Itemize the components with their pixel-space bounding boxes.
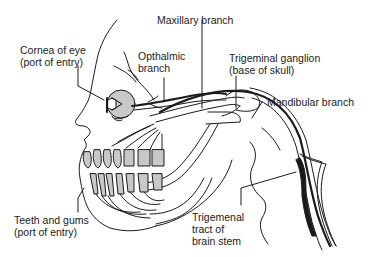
- label-cornea-line2: (port of entry): [20, 56, 86, 68]
- label-cornea-line1: Cornea of eye: [20, 44, 86, 56]
- upper-teeth-nerves: [112, 124, 162, 150]
- label-mandibular-text: Mandibular branch: [267, 96, 354, 108]
- trigeminal-diagram: Cornea of eye (port of entry) Opthalmic …: [0, 0, 372, 257]
- upper-teeth: [83, 150, 164, 168]
- label-ganglion: Trigeminal ganglion (base of skull): [229, 52, 320, 76]
- label-cornea: Cornea of eye (port of entry): [20, 44, 86, 68]
- label-maxillary: Maxillary branch: [157, 14, 233, 26]
- label-tract-line3: brain stem: [192, 235, 244, 247]
- label-mandibular: Mandibular branch: [267, 96, 354, 108]
- label-teeth-line2: (port of entry): [14, 226, 89, 238]
- label-tract-line1: Trigemenal: [192, 211, 244, 223]
- cornea-leader: [78, 66, 104, 100]
- label-trigemenal-tract: Trigemenal tract of brain stem: [192, 211, 244, 247]
- label-ganglion-line2: (base of skull): [229, 64, 320, 76]
- label-maxillary-text: Maxillary branch: [157, 14, 233, 26]
- tract-leader: [241, 172, 296, 205]
- label-opthalmic: Opthalmic branch: [138, 50, 185, 74]
- label-tract-line2: tract of: [192, 223, 244, 235]
- label-teeth-line1: Teeth and gums: [14, 214, 89, 226]
- label-teeth: Teeth and gums (port of entry): [14, 214, 89, 238]
- label-opthalmic-line2: branch: [138, 62, 185, 74]
- label-opthalmic-line1: Opthalmic: [138, 50, 185, 62]
- label-ganglion-line1: Trigeminal ganglion: [229, 52, 320, 64]
- lower-teeth: [90, 174, 162, 196]
